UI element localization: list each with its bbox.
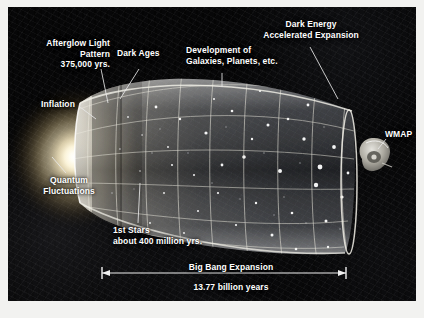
space-panel: Afterglow Light Pattern 375,000 yrs. Dar… [8,7,416,301]
universe-timeline-figure: Afterglow Light Pattern 375,000 yrs. Dar… [0,0,424,318]
leader-dark-energy [310,47,338,99]
expansion-scale-arrow [102,267,346,279]
wmap-satellite-icon [360,138,392,171]
expansion-cone-icon [8,7,416,301]
